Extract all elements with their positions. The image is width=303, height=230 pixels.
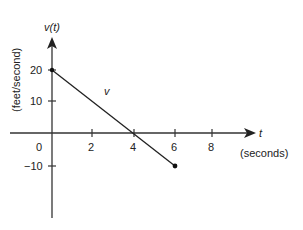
y-axis-unit: (feet/second) <box>10 48 22 112</box>
end-point <box>173 164 178 169</box>
line-label: v <box>104 85 111 97</box>
x-label-6: 6 <box>171 141 177 153</box>
y-label-20: 20 <box>30 64 42 76</box>
x-label-4: 4 <box>130 141 136 153</box>
x-label-8: 8 <box>208 141 214 153</box>
x-label-2: 2 <box>88 141 94 153</box>
y-label-10: 10 <box>30 95 42 107</box>
x-axis-unit: (seconds) <box>240 147 288 159</box>
x-label-0: 0 <box>36 141 42 153</box>
y-axis-variable: v(t) <box>44 21 60 33</box>
velocity-chart: 0 2 4 6 8 20 10 −10 v(t) t (seconds) (fe… <box>0 0 303 230</box>
start-point <box>50 68 54 72</box>
x-axis-variable: t <box>259 127 263 139</box>
y-label-neg10: −10 <box>24 160 43 172</box>
velocity-line <box>52 70 175 166</box>
